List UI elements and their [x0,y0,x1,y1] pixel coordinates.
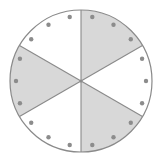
rim-dot [140,57,144,61]
rim-dot [144,79,148,83]
rim-dot [111,23,115,27]
rim-dot [14,79,18,83]
rim-dot [140,101,144,105]
rim-dot [18,57,22,61]
rim-dot [129,37,133,41]
center-point [80,80,83,83]
fraction-circle-diagram [0,0,158,160]
shaded-sector [81,10,142,81]
shaded-sector [81,81,142,152]
rim-dot [68,143,72,147]
rim-dot [90,15,94,19]
rim-dot [18,101,22,105]
rim-dot [111,135,115,139]
rim-dot [90,143,94,147]
rim-dot [46,135,50,139]
rim-dot [29,37,33,41]
rim-dot [68,15,72,19]
rim-dot [29,121,33,125]
rim-dot [46,23,50,27]
rim-dot [129,121,133,125]
shaded-sector [10,46,81,117]
